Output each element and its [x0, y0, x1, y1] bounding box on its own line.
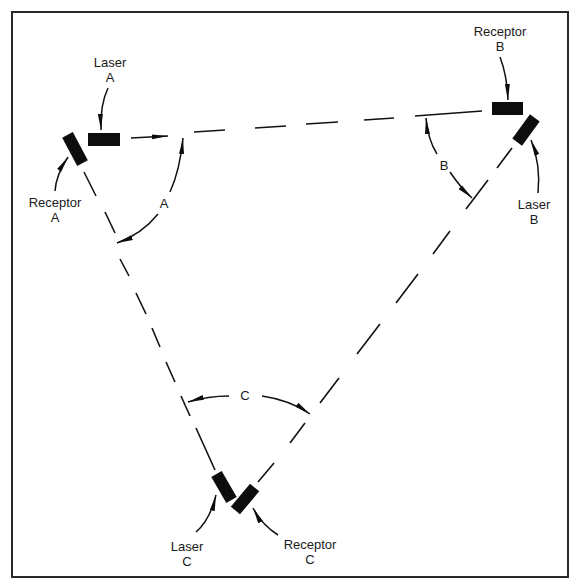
receptor-c-device	[231, 484, 259, 515]
receptor-b-label: Receptor	[474, 24, 527, 39]
laser-a-emission-arrow	[131, 136, 168, 138]
beam-a-to-b	[194, 111, 482, 132]
angle-b-arc	[426, 118, 472, 198]
laser-a-label: Laser	[94, 55, 127, 70]
angle-b-label: B	[440, 158, 449, 173]
laser-b-label: Laser	[518, 197, 551, 212]
angle-a-label: A	[160, 196, 169, 211]
angle-a-arc	[117, 138, 183, 243]
receptor-a-label-letter: A	[51, 210, 60, 225]
receptor-b-device	[492, 102, 523, 115]
laser-c-label-letter: C	[182, 554, 191, 569]
laser-b-pointer-arrow	[531, 140, 539, 193]
laser-b-device	[512, 114, 539, 145]
triangulation-diagram: Laser A Receptor A Receptor B Laser B La…	[0, 0, 580, 587]
diagram-frame	[12, 12, 568, 577]
receptor-c-label-letter: C	[305, 552, 314, 567]
laser-a-device	[88, 133, 120, 146]
laser-a-label-letter: A	[106, 70, 115, 85]
receptor-b-pointer-arrow	[500, 57, 508, 100]
receptor-c-label: Receptor	[284, 537, 337, 552]
receptor-a-pointer-arrow	[55, 157, 68, 191]
laser-c-label: Laser	[171, 539, 204, 554]
angle-c-label: C	[240, 388, 249, 403]
laser-b-label-letter: B	[530, 212, 539, 227]
beam-c-to-a	[84, 172, 215, 470]
beam-b-to-c	[258, 148, 512, 482]
receptor-a-label: Receptor	[29, 195, 82, 210]
laser-a-pointer-arrow	[101, 88, 108, 130]
laser-c-pointer-arrow	[196, 495, 216, 532]
receptor-c-pointer-arrow	[253, 508, 278, 535]
receptor-b-label-letter: B	[496, 39, 505, 54]
